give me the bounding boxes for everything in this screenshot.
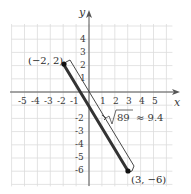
y-tick: 3 [80,47,86,57]
x-tick: -5 [18,96,27,106]
approx-value: ≈ 9.4 [136,112,163,123]
x-tick: 1 [100,96,106,106]
coordinate-plane: y x -5 -4 -3 -2 -1 1 2 3 4 5 4 3 2 1 -2 … [0,0,191,194]
y-tick: -6 [75,165,84,175]
x-tick: 4 [139,96,145,106]
radicand: 89 [117,112,130,123]
point-end [125,168,130,173]
x-tick: -2 [57,96,66,106]
y-tick: 2 [80,60,86,70]
y-axis-label: y [78,6,86,19]
y-tick: -3 [75,126,84,136]
y-tick: 4 [80,34,86,44]
x-tick: -1 [70,96,79,106]
x-tick: 3 [126,96,132,106]
x-tick: -4 [31,96,40,106]
y-tick: -2 [75,113,84,123]
x-tick: 2 [113,96,119,106]
x-tick: 5 [152,96,158,106]
y-tick: -5 [75,152,84,162]
point-start-label: (−2, 2) [28,55,63,66]
x-tick: -3 [44,96,53,106]
point-end-label: (3, −6) [131,174,166,185]
y-tick: -4 [75,139,84,149]
x-axis-label: x [174,96,181,109]
